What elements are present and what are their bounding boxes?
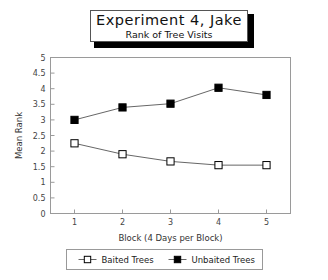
data-series-group [71, 84, 270, 169]
y-tick-label: 2.5 [33, 132, 46, 141]
legend-marker [84, 256, 90, 262]
x-tick-label: 2 [120, 218, 125, 227]
data-point-marker [167, 100, 174, 107]
data-point-marker [119, 151, 126, 158]
axes-group [51, 58, 291, 214]
y-tick-label: 3 [40, 116, 45, 125]
y-tick-label: 2 [40, 147, 45, 156]
y-tick-label: 4.5 [33, 69, 46, 78]
legend-marker [174, 256, 180, 262]
x-tick-label: 5 [264, 218, 269, 227]
legend-label: Baited Trees [102, 255, 155, 265]
chart-legend: Baited TreesUnbaited Trees [67, 250, 263, 270]
legend-label: Unbaited Trees [192, 255, 256, 265]
data-point-marker [119, 104, 126, 111]
data-point-marker [167, 158, 174, 165]
data-point-marker [263, 162, 270, 169]
y-tick-label: 1 [40, 178, 45, 187]
y-axis-label: Mean Rank [14, 112, 24, 159]
x-axis-ticks: 12345 [72, 210, 269, 227]
x-tick-label: 1 [72, 218, 77, 227]
y-axis-ticks: 00.511.522.533.544.55 [33, 54, 55, 219]
chart-figure: Experiment 4, Jake Rank of Tree Visits 0… [0, 0, 328, 280]
y-tick-label: 1.5 [33, 163, 46, 172]
data-point-marker [215, 162, 222, 169]
plot-frame [51, 58, 291, 214]
y-tick-label: 3.5 [33, 100, 46, 109]
x-axis-label: Block (4 Days per Block) [118, 233, 222, 243]
data-point-marker [71, 140, 78, 147]
plot-area: 00.511.522.533.544.55 12345 Mean Rank Bl… [0, 0, 328, 280]
data-point-marker [215, 84, 222, 91]
y-tick-label: 5 [40, 54, 45, 63]
y-tick-label: 0 [40, 210, 45, 219]
x-tick-label: 4 [216, 218, 221, 227]
data-point-marker [71, 116, 78, 123]
data-point-marker [263, 91, 270, 98]
y-tick-label: 0.5 [33, 194, 46, 203]
y-tick-label: 4 [40, 85, 45, 94]
x-tick-label: 3 [168, 218, 173, 227]
